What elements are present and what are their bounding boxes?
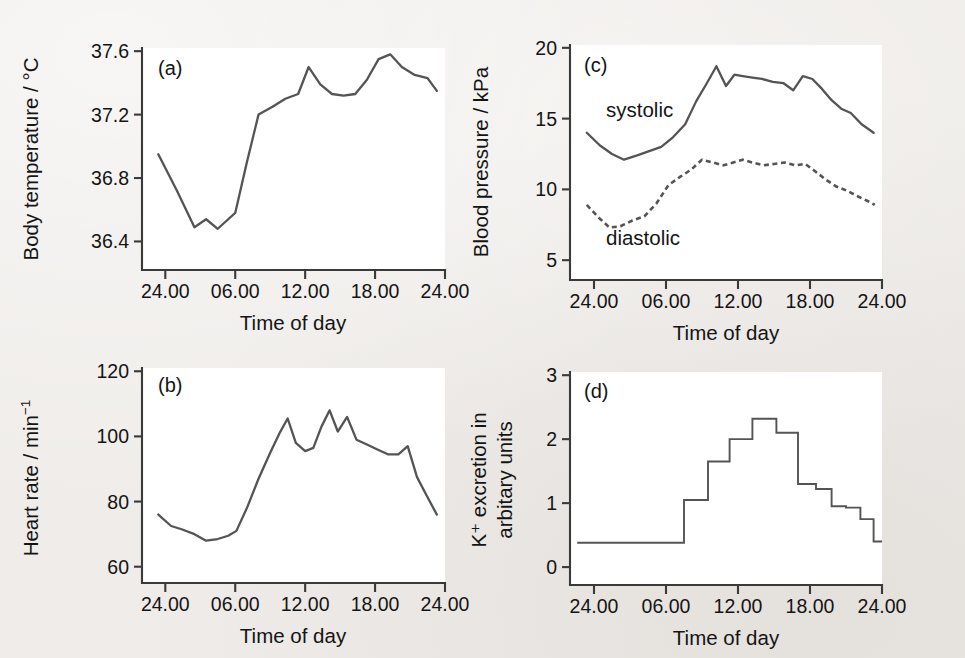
panel-d-y-tick-label: 0 xyxy=(546,556,557,578)
panel-c-x-tick-label: 12.00 xyxy=(714,290,763,312)
panel-d-y-tick-label: 3 xyxy=(546,364,557,386)
panel-b-y-tick-label: 60 xyxy=(107,556,129,578)
panel-b-y-tick-labels: 6080100120 xyxy=(96,360,129,577)
panel-b-y-axis-title: Heart rate / min−1 xyxy=(18,400,42,557)
panel-b-x-ticks xyxy=(165,583,445,592)
panel-a-y-axis-unit: °C xyxy=(19,57,42,80)
panel-b-x-tick-label: 24.00 xyxy=(141,593,190,615)
panel-a-y-axis-title: Body temperature / °C xyxy=(19,57,42,260)
panel-d-x-ticks xyxy=(594,585,882,594)
panel-d-x-tick-label: 18.00 xyxy=(786,595,835,617)
panel-c-label-systolic: systolic xyxy=(606,98,673,121)
panel-c-y-tick-label: 15 xyxy=(535,108,557,130)
panel-c-y-tick-labels: 5101520 xyxy=(535,37,557,271)
panel-b-y-tick-label: 120 xyxy=(96,360,129,382)
panel-a-y-axis-title-text: Body temperature / xyxy=(19,80,42,260)
panel-b-x-tick-label: 06.00 xyxy=(211,593,260,615)
panel-b-x-tick-label: 12.00 xyxy=(281,593,330,615)
panel-c-y-tick-label: 5 xyxy=(546,249,557,271)
panel-d-y-axis-title-line1: K⁺ excretion in xyxy=(467,412,490,547)
panel-a-letter: (a) xyxy=(158,57,182,79)
panel-c-x-ticks xyxy=(594,280,882,289)
panel-a-y-tick-label: 36.4 xyxy=(91,230,129,252)
panel-a-y-tick-label: 36.8 xyxy=(91,167,129,189)
panel-b-y-ticks xyxy=(134,371,142,566)
panel-c-label-diastolic: diastolic xyxy=(606,226,680,249)
panel-d-potassium-excretion: 0123 24.0006.0012.0018.0024.00 (d) Time … xyxy=(460,330,965,658)
panel-b-plot-background xyxy=(142,368,445,583)
panel-b-letter: (b) xyxy=(158,374,182,396)
panel-a-y-tick-label: 37.2 xyxy=(91,104,129,126)
panel-d-y-tick-label: 1 xyxy=(546,492,557,514)
panel-a-x-tick-labels: 24.0006.0012.0018.0024.00 xyxy=(141,280,470,302)
panel-c-x-tick-label: 06.00 xyxy=(642,290,691,312)
panel-d-x-tick-label: 06.00 xyxy=(642,595,691,617)
panel-a-body-temperature: 36.436.837.237.6 24.0006.0012.0018.0024.… xyxy=(0,0,480,345)
panel-b-x-tick-labels: 24.0006.0012.0018.0024.00 xyxy=(141,593,470,615)
panel-c-y-tick-label: 20 xyxy=(535,37,557,59)
panel-d-y-tick-labels: 0123 xyxy=(546,364,557,578)
panel-a-x-tick-label: 24.00 xyxy=(141,280,190,302)
panel-b-y-axis-title-text: Heart rate / min xyxy=(19,415,42,556)
panel-c-blood-pressure: 5101520 24.0006.0012.0018.0024.00 systol… xyxy=(460,0,965,345)
panel-c-y-axis-title: Blood pressure / kPa xyxy=(469,66,492,257)
panel-d-plot-background xyxy=(570,372,882,585)
panel-a-y-tick-label: 37.6 xyxy=(91,40,129,62)
panel-c-x-tick-label: 24.00 xyxy=(858,290,907,312)
panel-d-y-tick-label: 2 xyxy=(546,428,557,450)
panel-a-y-ticks xyxy=(134,51,142,241)
panel-d-x-tick-label: 24.00 xyxy=(858,595,907,617)
panel-b-heart-rate: 6080100120 24.0006.0012.0018.0024.00 (b)… xyxy=(0,330,480,658)
panel-c-x-tick-label: 18.00 xyxy=(786,290,835,312)
panel-d-x-tick-label: 24.00 xyxy=(570,595,619,617)
panel-a-x-ticks xyxy=(165,270,445,279)
panel-c-letter: (c) xyxy=(584,54,607,76)
panel-a-x-tick-label: 18.00 xyxy=(351,280,400,302)
panel-b-x-axis-title: Time of day xyxy=(240,624,347,647)
panel-b-y-axis-exponent: −1 xyxy=(18,400,33,415)
panel-c-y-ticks xyxy=(562,48,570,260)
panel-d-letter: (d) xyxy=(584,380,608,402)
panel-c-x-tick-labels: 24.0006.0012.0018.0024.00 xyxy=(570,290,907,312)
panel-b-x-tick-label: 18.00 xyxy=(351,593,400,615)
panel-d-x-tick-label: 12.00 xyxy=(714,595,763,617)
panel-b-y-tick-label: 100 xyxy=(96,425,129,447)
panel-b-y-tick-label: 80 xyxy=(107,491,129,513)
panel-d-x-axis-title: Time of day xyxy=(673,626,780,649)
panel-d-y-axis-title-line2: arbitary units xyxy=(493,421,516,538)
panel-c-x-tick-label: 24.00 xyxy=(570,290,619,312)
panel-a-x-tick-label: 12.00 xyxy=(281,280,330,302)
panel-a-plot-background xyxy=(142,48,445,270)
figure-circadian-rhythms: 36.436.837.237.6 24.0006.0012.0018.0024.… xyxy=(0,0,965,658)
panel-d-y-ticks xyxy=(562,375,570,567)
panel-a-y-tick-labels: 36.436.837.237.6 xyxy=(91,40,129,252)
panel-d-x-tick-labels: 24.0006.0012.0018.0024.00 xyxy=(570,595,907,617)
panel-c-y-tick-label: 10 xyxy=(535,178,557,200)
panel-a-x-tick-label: 06.00 xyxy=(211,280,260,302)
